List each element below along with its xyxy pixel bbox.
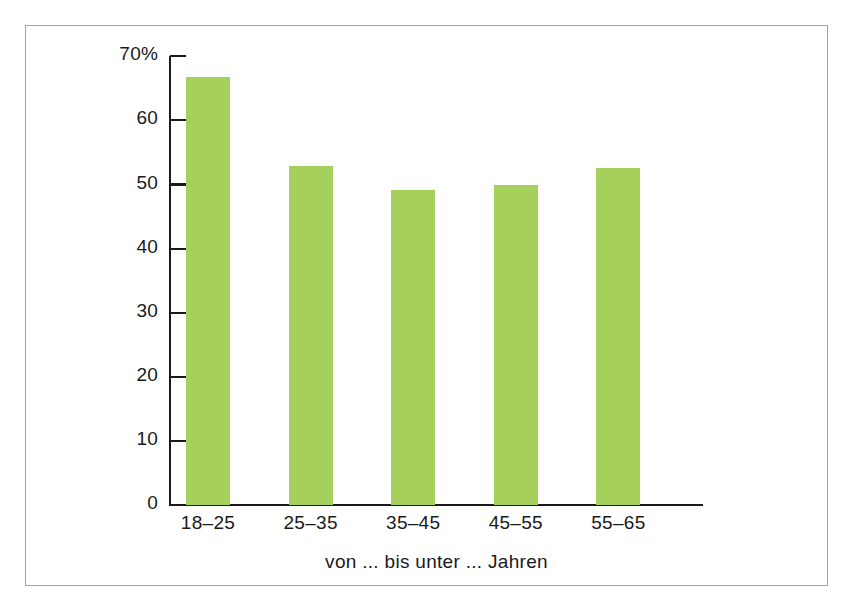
bar [391, 190, 435, 505]
x-axis-title: von ... bis unter ... Jahren [170, 551, 703, 573]
chart-figure: 010203040506070% 18–2525–3535–4545–5555–… [0, 0, 841, 597]
bar [186, 77, 230, 505]
bar-series [0, 0, 841, 505]
bar [596, 168, 640, 505]
x-axis-tick-label: 55–65 [558, 512, 678, 534]
bar [494, 185, 538, 505]
bar [289, 166, 333, 505]
plot-area: 010203040506070% 18–2525–3535–4545–5555–… [0, 0, 841, 597]
